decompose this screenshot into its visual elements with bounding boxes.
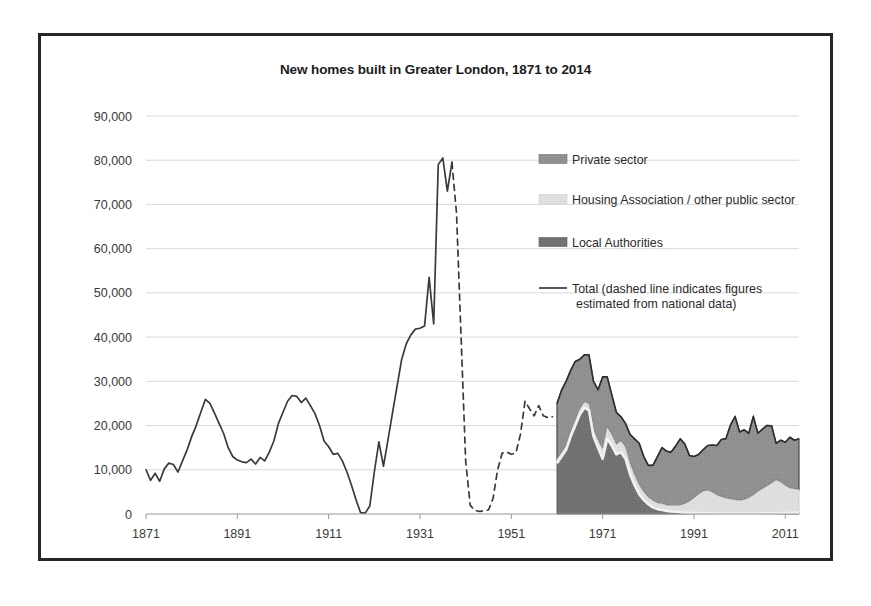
y-axis-tick-label: 10,000 (94, 463, 132, 477)
x-axis-tick-label: 1931 (406, 527, 434, 541)
legend-color-swatch (539, 155, 567, 164)
legend-label: Housing Association / other public secto… (572, 193, 795, 207)
y-axis-tick-label: 80,000 (94, 154, 132, 168)
x-axis-labels: 18711891191119311951197119912011 (132, 527, 799, 541)
legend-label: Private sector (572, 153, 648, 167)
y-axis-tick-label: 70,000 (94, 198, 132, 212)
x-axis-tick-label: 1951 (497, 527, 525, 541)
legend-label: Local Authorities (572, 236, 663, 250)
x-axis-tick-label: 1891 (223, 527, 251, 541)
chart-svg: 010,00020,00030,00040,00050,00060,00070,… (41, 36, 830, 558)
plot-area: 010,00020,00030,00040,00050,00060,00070,… (41, 36, 830, 558)
legend-label-continuation: estimated from national data) (576, 297, 736, 311)
y-axis-tick-label: 50,000 (94, 286, 132, 300)
x-axis-tick-label: 2011 (772, 527, 799, 541)
legend-color-swatch (539, 195, 567, 204)
legend-entry: Local Authorities (539, 236, 663, 250)
total-line-measured (146, 158, 452, 513)
y-axis-tick-label: 90,000 (94, 110, 132, 124)
legend-entry: Private sector (539, 153, 648, 167)
legend-label: Total (dashed line indicates figures (572, 282, 762, 296)
legend-entry: Total (dashed line indicates figuresesti… (539, 282, 762, 312)
x-axis-tick-label: 1991 (680, 527, 708, 541)
chart-page: New homes built in Greater London, 1871 … (0, 0, 871, 606)
y-axis-tick-label: 20,000 (94, 419, 132, 433)
y-axis-tick-label: 30,000 (94, 375, 132, 389)
x-axis-tick-label: 1971 (589, 527, 617, 541)
chart-frame: New homes built in Greater London, 1871 … (38, 33, 833, 561)
legend-entry: Housing Association / other public secto… (539, 193, 795, 207)
y-axis-tick-label: 60,000 (94, 242, 132, 256)
x-axis-tick-label: 1871 (132, 527, 160, 541)
x-axis (146, 514, 799, 519)
y-axis-tick-label: 0 (125, 508, 132, 522)
chart-legend: Private sectorHousing Association / othe… (539, 153, 795, 312)
legend-color-swatch (539, 238, 567, 247)
y-axis-labels: 010,00020,00030,00040,00050,00060,00070,… (94, 110, 132, 522)
y-axis-tick-label: 40,000 (94, 331, 132, 345)
x-axis-tick-label: 1911 (315, 527, 342, 541)
